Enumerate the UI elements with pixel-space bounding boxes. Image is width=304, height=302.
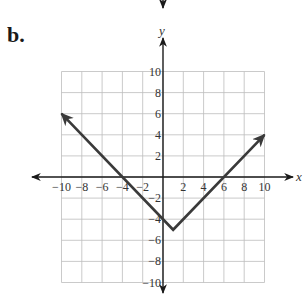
x-tick-label: 6	[221, 180, 227, 194]
y-tick-label: 8	[155, 86, 161, 100]
y-tick-label: 4	[155, 128, 161, 142]
y-tick-label: 6	[155, 107, 161, 121]
y-tick-label: −8	[148, 254, 161, 268]
x-tick-label: 2	[180, 180, 186, 194]
x-tick-label: 4	[201, 180, 207, 194]
y-tick-label: −2	[148, 191, 161, 205]
graph: xy−10−8−6−4−2246810108642−2−4−6−8−10	[0, 0, 304, 302]
x-tick-label: 8	[241, 180, 247, 194]
y-tick-label: 2	[155, 149, 161, 163]
y-axis-label: y	[157, 23, 165, 38]
y-tick-label: −6	[148, 233, 161, 247]
y-tick-label: −10	[142, 276, 161, 290]
x-axis-label: x	[295, 169, 302, 184]
x-tick-label: 10	[259, 180, 271, 194]
x-tick-label: −10	[52, 180, 71, 194]
x-tick-label: −8	[75, 180, 88, 194]
y-tick-label: 10	[149, 65, 161, 79]
x-tick-label: −6	[96, 180, 109, 194]
